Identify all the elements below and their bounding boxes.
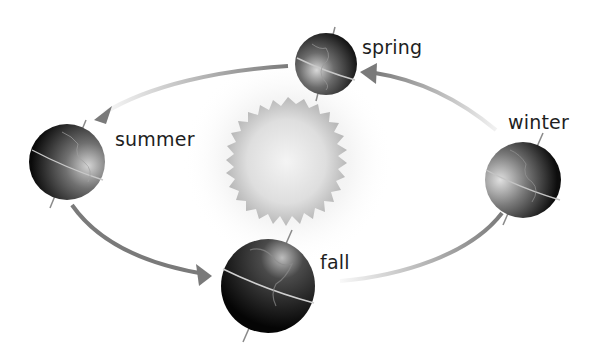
orbit-arrow-summer-to-fall [72, 205, 212, 286]
label-spring: spring [362, 36, 422, 58]
globe-winter [485, 133, 561, 225]
seasons-diagram: spring summer fall winter [0, 0, 598, 362]
orbit-canvas [0, 0, 598, 362]
globe-summer [29, 120, 105, 208]
sun [183, 56, 393, 266]
label-fall: fall [320, 251, 350, 273]
label-summer: summer [115, 128, 195, 150]
label-winter: winter [508, 111, 569, 133]
